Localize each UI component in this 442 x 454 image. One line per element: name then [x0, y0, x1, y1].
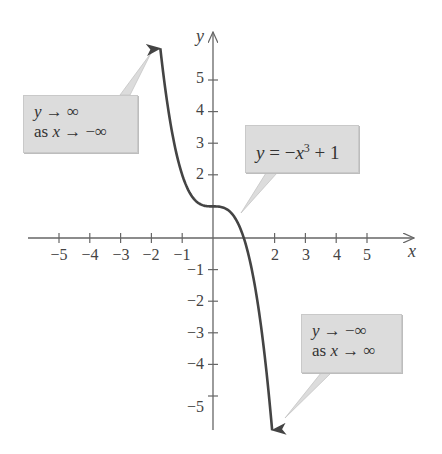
y-tick-label: 2: [196, 165, 204, 182]
y-tick-labels: 5 4 3 2 −1 −2 −3 −4 −5: [187, 69, 204, 415]
y-tick-label: −4: [187, 355, 204, 372]
x-axis-label: x: [407, 241, 416, 261]
callout-line: as x → ∞: [312, 341, 401, 361]
right-end-behavior-callout: y → −∞ as x → ∞: [301, 314, 402, 373]
y-tick-label: −2: [187, 292, 204, 309]
x-tick-label: 5: [363, 246, 371, 263]
x-tick-label: 4: [333, 246, 341, 263]
x-tick-labels: −5 −4 −3 −2 −1 2 3 4 5: [50, 246, 371, 263]
y-tick-label: 3: [196, 134, 204, 151]
y-tick-label: 4: [196, 101, 204, 118]
x-tick-label: −3: [112, 246, 129, 263]
x-tick-label: −5: [50, 246, 67, 263]
left-callout-pointer: [120, 53, 151, 95]
cubic-graph: −5 −4 −3 −2 −1 2 3 4 5 5 4 3 2 −1 −2 −3 …: [0, 0, 442, 454]
equation-text: y = −x3 + 1: [256, 138, 358, 163]
y-tick-label: −1: [187, 261, 204, 278]
equation-callout: y = −x3 + 1: [245, 125, 359, 173]
cubic-curve: [160, 48, 272, 430]
left-end-behavior-callout: y → ∞ as x → −∞: [23, 95, 138, 153]
callout-line: y → −∞: [312, 321, 401, 341]
equation-callout-pointer: [241, 173, 277, 213]
y-axis-label: y: [194, 26, 204, 46]
y-tick-label: −3: [187, 324, 204, 341]
callout-line: y → ∞: [34, 102, 137, 122]
callout-line: as x → −∞: [34, 122, 137, 142]
right-callout-pointer: [285, 373, 331, 418]
y-tick-label: 5: [196, 69, 204, 86]
y-tick-label: −5: [187, 398, 204, 415]
x-tick-label: −2: [142, 246, 159, 263]
x-tick-label: −4: [81, 246, 98, 263]
x-tick-label: 2: [271, 246, 279, 263]
x-tick-label: 3: [302, 246, 310, 263]
